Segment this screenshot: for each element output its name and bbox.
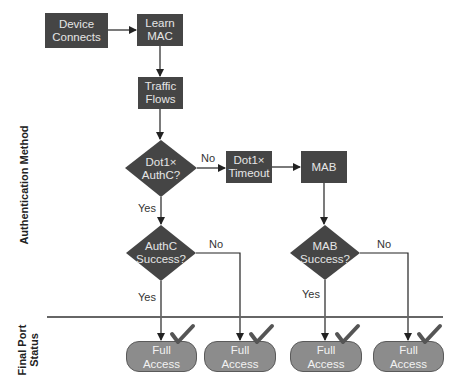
checkmarks	[0, 0, 460, 387]
check-icon	[172, 326, 193, 342]
check-icon	[419, 326, 440, 342]
check-icon	[251, 326, 272, 342]
check-icon	[337, 326, 358, 342]
